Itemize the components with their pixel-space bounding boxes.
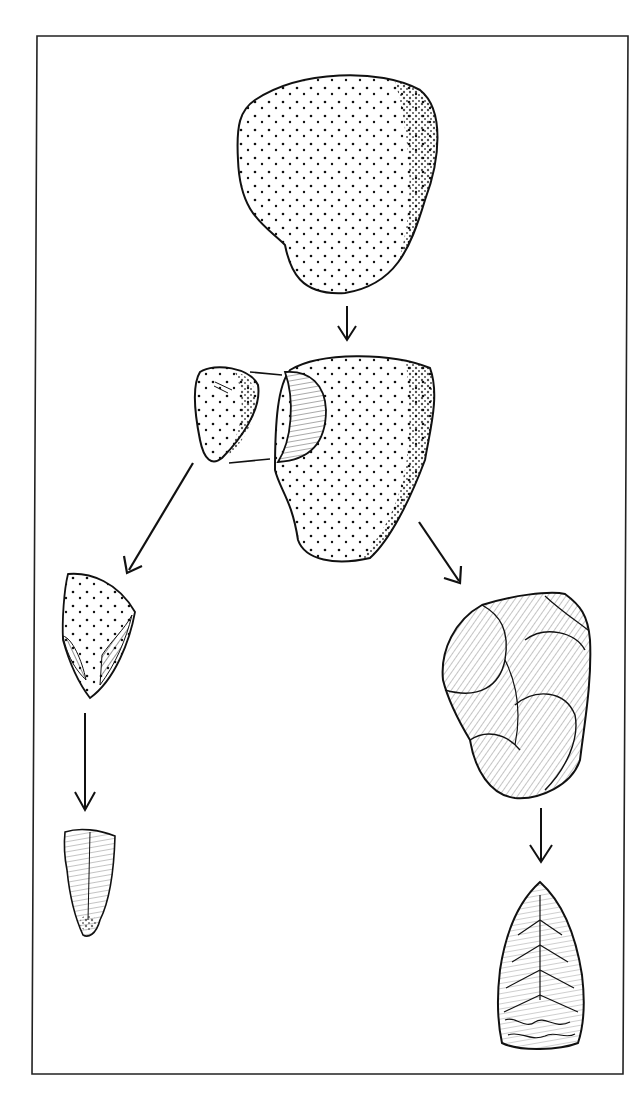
handaxe-drawing	[498, 882, 584, 1049]
reduction-diagram	[0, 0, 643, 1096]
arrow-down-icon	[75, 713, 95, 810]
arrow-down-icon	[338, 306, 356, 340]
nodule-drawing	[238, 75, 450, 300]
flake-tool-drawing	[64, 829, 115, 936]
flake-blank-drawing	[63, 574, 135, 698]
arrow-down-icon	[530, 808, 552, 862]
arrow-diagonal-right-icon	[419, 522, 461, 583]
arrow-diagonal-left-icon	[124, 463, 193, 573]
worked-core-drawing	[443, 593, 591, 798]
split-flake-drawing	[195, 367, 258, 461]
split-core-drawing	[275, 355, 445, 561]
